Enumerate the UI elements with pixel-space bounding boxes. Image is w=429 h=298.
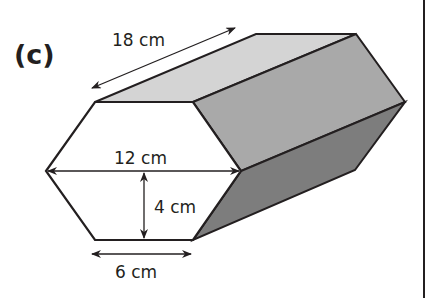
hexagonal-prism-diagram: 18 cm 12 cm 4 cm 6 cm (c)	[0, 0, 429, 298]
width-label: 12 cm	[114, 148, 167, 168]
height-label: 4 cm	[154, 197, 196, 217]
edge-label: 6 cm	[115, 262, 157, 282]
part-label: (c)	[14, 39, 55, 70]
length-label: 18 cm	[112, 30, 165, 50]
